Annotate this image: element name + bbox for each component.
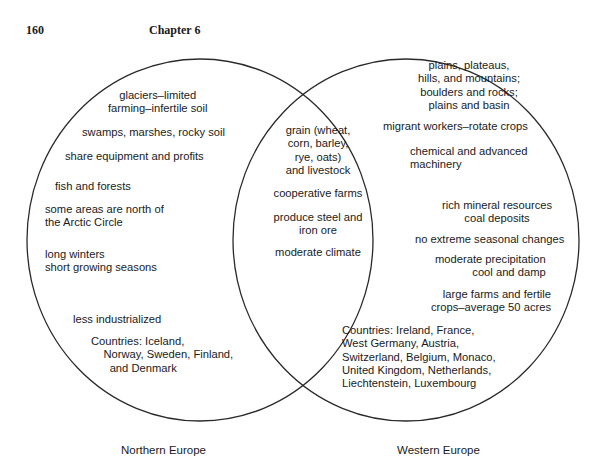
northern-item-winters: long winters short growing seasons	[45, 248, 157, 275]
northern-item-arctic: some areas are north of the Arctic Circl…	[45, 203, 164, 230]
western-item-precipitation: moderate precipitation cool and damp	[435, 253, 546, 280]
northern-item-countries: Countries: Iceland, Norway, Sweden, Finl…	[91, 335, 233, 375]
western-item-mineral: rich mineral resources coal deposits	[442, 199, 552, 226]
western-europe-label: Western Europe	[397, 444, 480, 456]
overlap-item-cooperative: cooperative farms	[258, 187, 378, 200]
northern-europe-label: Northern Europe	[121, 444, 206, 456]
western-item-countries: Countries: Ireland, France, West Germany…	[342, 324, 496, 390]
northern-item-share: share equipment and profits	[65, 150, 204, 163]
northern-item-fish: fish and forests	[55, 180, 131, 193]
northern-item-swamps: swamps, marshes, rocky soil	[82, 126, 225, 139]
overlap-item-grain: grain (wheat, corn, barley, rye, oats) a…	[275, 124, 361, 177]
overlap-item-steel: produce steel and iron ore	[258, 211, 378, 238]
northern-item-industrialized: less industrialized	[73, 313, 161, 326]
western-item-machinery: chemical and advanced machinery	[410, 145, 528, 172]
northern-item-glaciers: glaciers–limited farming–infertile soil	[108, 89, 208, 116]
western-item-farms: large farms and fertile crops–average 50…	[431, 288, 551, 315]
western-item-seasonal: no extreme seasonal changes	[415, 233, 564, 246]
western-item-migrant: migrant workers–rotate crops	[383, 120, 528, 133]
overlap-item-climate: moderate climate	[258, 246, 378, 259]
western-item-landforms: plains, plateaus, hills, and mountains; …	[384, 59, 554, 112]
